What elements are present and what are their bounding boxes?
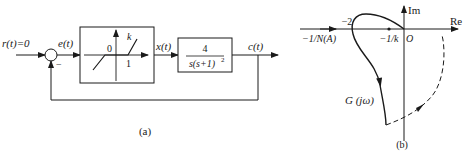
nonlinear-slope-label: k	[127, 31, 132, 42]
output-label: c(t)	[248, 40, 264, 53]
neg-two-label: −2	[342, 16, 353, 27]
intermediate-label: x(t)	[155, 40, 172, 53]
nonlinear-origin-label: 0	[107, 43, 112, 54]
diagram-canvas: r(t)=0 e(t) − 0 k 1 x(t) 4 s(s+1) 2 c(t)…	[0, 0, 473, 158]
re-axis-label: Re	[450, 15, 462, 27]
error-label: e(t)	[58, 37, 74, 50]
arc-direction-arrow	[416, 104, 424, 112]
plant-numerator: 4	[203, 43, 208, 54]
neg-inv-k-label: −1/k	[380, 33, 400, 44]
describing-function-label: −1/N(A)	[302, 33, 337, 45]
plant-denominator: s(s+1)	[189, 58, 216, 70]
caption-a: (a)	[139, 125, 152, 138]
nyquist-plot	[300, 6, 458, 141]
caption-b: (b)	[396, 139, 408, 151]
infinite-arc-dashed	[386, 35, 444, 125]
im-axis-label: Im	[408, 4, 421, 16]
summing-sign: −	[56, 59, 62, 70]
nyquist-curve	[352, 14, 404, 125]
nyquist-label: G (jω)	[345, 94, 374, 107]
plant-denominator-exponent: 2	[221, 56, 225, 64]
neg-inv-k-point	[387, 27, 390, 30]
nonlinear-deadzone-label: 1	[126, 58, 131, 69]
origin-label: O	[406, 33, 413, 44]
input-label: r(t)=0	[2, 37, 30, 50]
